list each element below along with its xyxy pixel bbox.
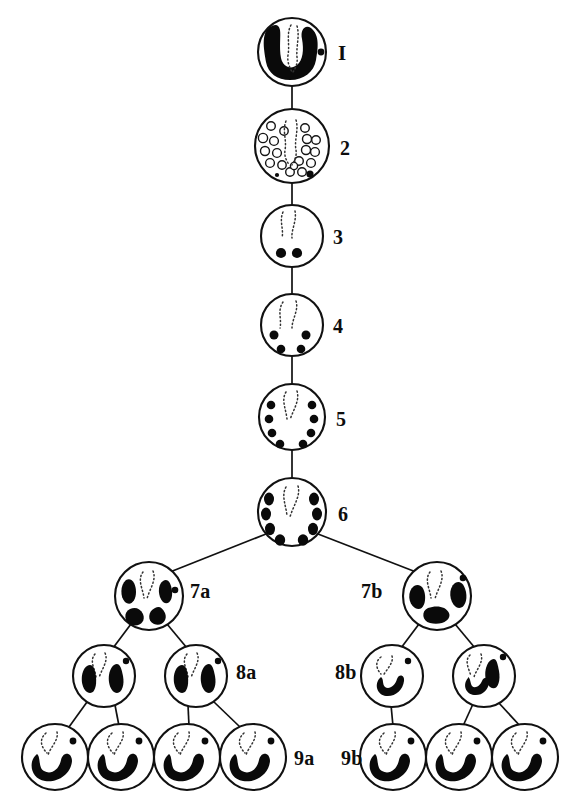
cell-stage7b[interactable] xyxy=(403,562,471,630)
cell-stage1[interactable] xyxy=(258,18,326,86)
polar-body-dot xyxy=(474,738,481,745)
polar-body-dot xyxy=(540,738,547,745)
polar-body-dot xyxy=(172,587,179,594)
chromatin-blob xyxy=(298,534,308,546)
polar-body-dot xyxy=(460,575,467,582)
cell-stage3[interactable] xyxy=(261,205,323,267)
chromatin-blob xyxy=(261,508,271,521)
stage-label-2: 2 xyxy=(340,137,350,159)
chromatin-blob xyxy=(275,534,285,546)
cell-stage8a-left[interactable] xyxy=(73,645,135,707)
chromatin-dot xyxy=(270,331,279,340)
chromatin-blob xyxy=(265,523,275,535)
stage-label-9b: 9b xyxy=(341,747,363,769)
link-8b-left-9b-1 xyxy=(391,705,393,726)
cell-stage7a[interactable] xyxy=(115,562,183,630)
stage-label-1: I xyxy=(338,41,346,65)
link-7a-8a-right xyxy=(167,624,187,648)
polar-body-dot xyxy=(123,658,129,664)
stage-label-8a: 8a xyxy=(236,661,256,683)
chromatin-dot xyxy=(307,429,316,438)
cell-stage9a-4[interactable] xyxy=(220,724,286,790)
polar-body-dot xyxy=(318,49,325,56)
cell-stage9a-3[interactable] xyxy=(154,724,220,790)
polar-body-dot xyxy=(405,658,411,664)
chromatin-dot xyxy=(308,401,317,410)
chromatin-dot xyxy=(297,345,306,354)
cell-stage8b-right[interactable] xyxy=(453,645,515,707)
stage-label-7b: 7b xyxy=(361,580,383,602)
chromatin-dot xyxy=(276,248,286,258)
chromatin-blob xyxy=(309,493,319,506)
cell-membrane xyxy=(261,205,323,267)
link-8a-left-9a-2 xyxy=(115,705,119,726)
cell-stage8b-left[interactable] xyxy=(361,645,423,707)
polar-body-dot xyxy=(268,738,275,745)
stage-label-9a: 9a xyxy=(294,747,314,769)
stage-label-8b: 8b xyxy=(335,661,357,683)
cell-stage5[interactable] xyxy=(259,384,325,450)
chromatin-dot xyxy=(299,440,308,449)
polar-body-dot xyxy=(500,654,506,660)
polar-body-dot xyxy=(202,738,209,745)
chromatin-dot xyxy=(265,415,274,424)
chromatin-blob xyxy=(121,579,136,603)
small-dot xyxy=(275,173,279,177)
link-8a-right-9a-4 xyxy=(214,702,240,727)
cell-stage8a-right[interactable] xyxy=(165,645,227,707)
polar-body-dot xyxy=(408,738,415,745)
chromatin-dot xyxy=(302,331,311,340)
link-7b-8b-right xyxy=(455,624,475,648)
chromatin-dot xyxy=(267,401,276,410)
link-8b-right-9b-2 xyxy=(463,704,473,726)
cell-stage2[interactable] xyxy=(255,109,329,183)
polar-body-dot xyxy=(136,738,143,745)
stage-label-4: 4 xyxy=(333,315,343,337)
chromatin-dot xyxy=(277,345,286,354)
figure-root: I 2 xyxy=(0,0,581,808)
cell-membrane xyxy=(361,645,423,707)
cell-stage9b-3[interactable] xyxy=(492,724,558,790)
chromatin-dot xyxy=(268,429,277,438)
link-8b-right-9b-3 xyxy=(498,702,521,727)
cell-stage4[interactable] xyxy=(261,294,323,356)
cell-stage9a-2[interactable] xyxy=(88,724,154,790)
polar-body-dot xyxy=(215,658,221,664)
stage-label-5: 5 xyxy=(336,408,346,430)
chromatin-blob xyxy=(308,523,318,535)
cell-lineage-diagram: I 2 xyxy=(0,0,581,808)
cell-stage9b-2[interactable] xyxy=(426,724,492,790)
cell-stage9b-1[interactable] xyxy=(360,724,426,790)
polar-body-dot xyxy=(70,738,77,745)
link-8a-left-9a-1 xyxy=(69,702,87,727)
cell-stage6[interactable] xyxy=(258,478,326,546)
link-8a-right-9a-3 xyxy=(188,705,189,726)
chromatin-blob xyxy=(312,508,322,521)
stage-label-6: 6 xyxy=(338,503,348,525)
polar-body-dot xyxy=(306,170,313,177)
chromatin-blob xyxy=(423,606,449,623)
chromatin-dot xyxy=(276,440,285,449)
stage-label-3: 3 xyxy=(333,226,343,248)
stage-label-7a: 7a xyxy=(190,580,210,602)
cell-membrane xyxy=(453,645,515,707)
cell-stage9a-1[interactable] xyxy=(22,724,88,790)
chromatin-dot xyxy=(292,248,302,258)
link-7b-8b-left xyxy=(401,624,419,648)
link-6-7a xyxy=(170,534,266,572)
chromatin-blob xyxy=(264,493,274,506)
link-6-7b xyxy=(318,534,416,572)
chromatin-dot xyxy=(310,415,319,424)
link-7a-8a-left xyxy=(113,624,131,648)
